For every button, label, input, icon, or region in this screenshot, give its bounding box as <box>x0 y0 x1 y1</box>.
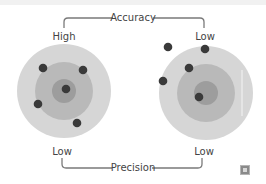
hit <box>195 93 204 102</box>
hit <box>164 43 173 52</box>
diagram-canvas <box>0 0 266 184</box>
left-precision-label: Low <box>52 146 72 158</box>
hit <box>159 77 168 86</box>
expand-icon[interactable] <box>240 165 250 175</box>
accuracy-precision-diagram: Accuracy High Low Low Low Precision <box>0 0 266 184</box>
hit <box>34 100 43 109</box>
left-accuracy-label: High <box>53 31 76 43</box>
accuracy-label: Accuracy <box>110 12 156 24</box>
hit <box>39 64 48 73</box>
hit <box>185 64 194 73</box>
hit <box>73 119 82 128</box>
target-low-accuracy-low-precision <box>159 43 253 140</box>
hit <box>62 85 71 94</box>
right-precision-label: Low <box>194 146 214 158</box>
hit <box>201 45 210 54</box>
right-accuracy-label: Low <box>195 31 215 43</box>
target-high-accuracy-low-precision <box>17 44 111 138</box>
precision-label: Precision <box>111 162 156 174</box>
hit <box>79 66 88 75</box>
